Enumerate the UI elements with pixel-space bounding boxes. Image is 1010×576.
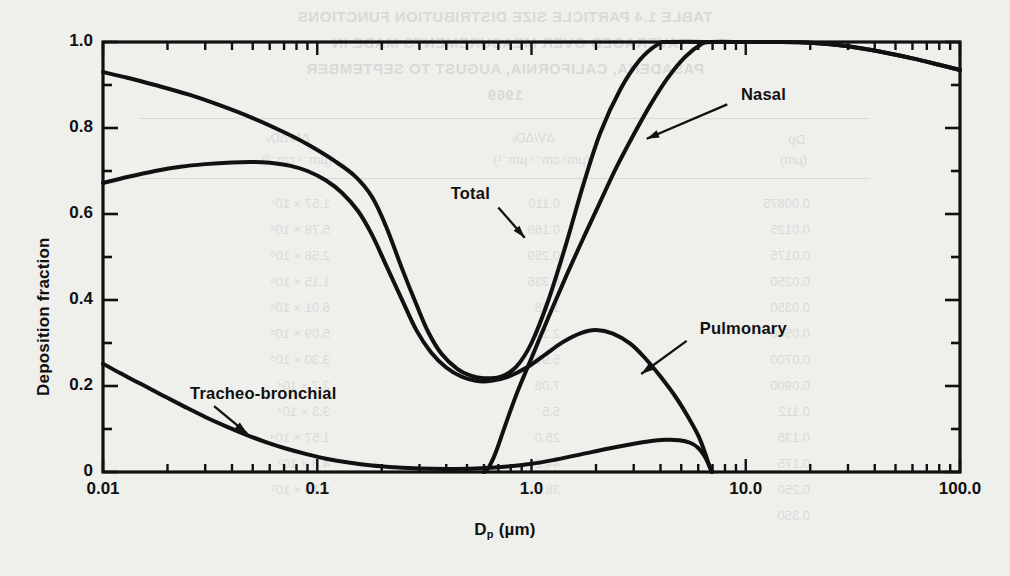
y-tick-label: 0.6: [33, 203, 93, 223]
arrow-pulmonary: [641, 341, 687, 374]
curve-label-nasal: Nasal: [741, 85, 786, 104]
curve-label-pulmonary: Pulmonary: [700, 319, 787, 338]
figure-canvas: 00.20.40.60.81.0 0.010.11.010.0100.0 Tot…: [0, 0, 1010, 576]
x-axis-label-main: D: [474, 520, 486, 539]
y-tick-label: 0: [33, 461, 93, 481]
curve-pulmonary: [103, 162, 712, 472]
curve-label-tracheo-bronchial: Tracheo-bronchial: [190, 384, 336, 403]
deposition-fraction-plot: [0, 0, 1010, 576]
x-axis-label: Dp (µm): [0, 520, 1010, 540]
data-curves: [103, 42, 960, 472]
y-tick-label: 1.0: [33, 31, 93, 51]
arrow-nasal: [647, 104, 728, 138]
arrow-total: [498, 208, 524, 238]
x-axis-ticks: [103, 42, 960, 472]
curve-total: [103, 42, 960, 378]
y-axis-ticks: [103, 42, 960, 472]
curve-label-total: Total: [451, 184, 490, 203]
y-axis-label: Deposition fraction: [34, 237, 54, 396]
x-axis-label-unit: (µm): [494, 520, 536, 539]
axes-frame: [103, 42, 960, 472]
curve-tracheo-bronchial: [103, 364, 712, 472]
x-axis-label-subscript: p: [487, 528, 494, 540]
y-tick-label: 0.8: [33, 117, 93, 137]
